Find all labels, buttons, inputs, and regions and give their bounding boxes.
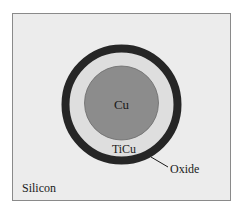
ticu-label: TiCu [112, 142, 136, 156]
oxide-label: Oxide [170, 162, 199, 176]
cu-label: Cu [114, 97, 130, 112]
oxide-leader-line [151, 157, 168, 167]
silicon-label: Silicon [22, 181, 56, 195]
cross-section-diagram: Cu TiCu Oxide Silicon [0, 0, 244, 215]
